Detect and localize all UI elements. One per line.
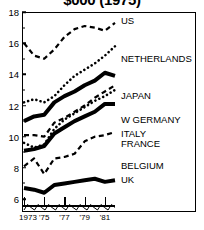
y-tick-mark: [22, 105, 26, 107]
y-tick-mark: [22, 136, 26, 138]
series-line-belgium: [24, 104, 115, 151]
series-line-uk: [24, 179, 115, 193]
series-label-us: US: [121, 17, 134, 27]
series-label-w-germany: W GERMANY: [121, 115, 181, 125]
chart-container: $000 (1975) 681012141618 1973'75'77'79'8…: [0, 0, 204, 230]
series-label-uk: UK: [121, 176, 134, 186]
y-tick-mark-minor: [22, 58, 25, 59]
series-label-belgium: BELGIUM: [121, 162, 164, 172]
x-tick-mark: [105, 197, 106, 206]
x-tick-mark: [85, 197, 86, 206]
y-tick-mark-minor: [22, 183, 25, 184]
x-tick-mark: [24, 197, 25, 206]
y-tick-mark-minor: [22, 27, 25, 28]
y-tick-mark-minor: [22, 152, 25, 153]
y-tick-mark: [22, 167, 26, 169]
series-label-netherlands: NETHERLANDS: [121, 54, 192, 64]
series-label-italy: ITALY: [121, 129, 146, 139]
x-axis-line: [23, 205, 115, 207]
series-line-japan: [24, 90, 115, 148]
x-tick-mark: [44, 197, 45, 206]
x-tick-mark: [64, 197, 65, 206]
y-tick-mark-minor: [22, 89, 25, 90]
series-line-italy: [24, 132, 115, 174]
series-label-japan: JAPAN: [121, 91, 151, 101]
y-tick-mark: [22, 74, 26, 76]
series-label-france: FRANCE: [121, 140, 160, 150]
y-tick-mark: [22, 42, 26, 44]
y-tick-mark: [22, 11, 26, 13]
y-tick-mark-minor: [22, 121, 25, 122]
series-line-us: [24, 23, 115, 59]
